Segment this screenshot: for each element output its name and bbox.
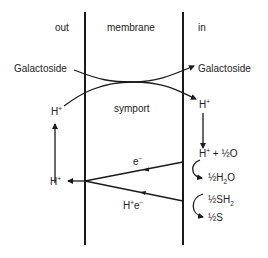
proton-electron-label: H+e− [123,199,144,211]
proton-out-label: H+ [51,105,62,117]
region-label-membrane: membrane [107,22,155,33]
galactoside-transport-curve [74,66,194,82]
galactoside-out-label: Galactoside [14,63,67,74]
sulfide-reactant-label: ½SH2 [208,194,234,207]
oxygen-reaction-curve [193,160,202,178]
electron-label: e− [133,155,143,167]
symport-label: symport [114,103,150,114]
sulfide-reaction-curve [193,194,203,217]
oxygen-reactant-label: H+ + ½O [199,147,238,159]
proton-released-label: H+ [50,175,61,187]
sulfide-product-label: ½S [208,212,223,223]
region-label-in: in [198,22,206,33]
galactoside-in-label: Galactoside [198,63,251,74]
proton-electron-flow-line [85,181,183,201]
symport-membrane-diagram: out membrane in Galactoside Galactoside … [0,0,268,258]
proton-in-label: H+ [199,98,210,110]
region-label-out: out [55,22,69,33]
oxygen-product-label: ½H2O [208,172,235,185]
